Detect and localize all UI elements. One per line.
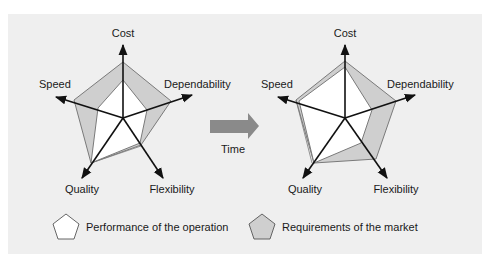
right-label-cost: Cost: [334, 27, 357, 39]
left-polar-chart: Cost Dependability Flexibility Quality S…: [39, 27, 231, 195]
gray-pentagon-icon: [249, 214, 275, 239]
right-label-dependability: Dependability: [387, 78, 454, 90]
left-label-flexibility: Flexibility: [149, 183, 195, 195]
left-label-cost: Cost: [112, 27, 135, 39]
legend-item-market: Requirements of the market: [249, 214, 418, 239]
right-label-speed: Speed: [261, 78, 293, 90]
legend-label-market: Requirements of the market: [282, 221, 418, 233]
legend: Performance of the operation Requirement…: [53, 214, 418, 239]
left-label-dependability: Dependability: [164, 78, 231, 90]
left-label-quality: Quality: [65, 183, 100, 195]
time-arrow-icon: [210, 113, 259, 139]
polar-diagrams: Cost Dependability Flexibility Quality S…: [0, 0, 499, 265]
legend-item-operation: Performance of the operation: [53, 214, 228, 239]
legend-label-operation: Performance of the operation: [86, 221, 228, 233]
time-label: Time: [221, 143, 245, 155]
right-label-flexibility: Flexibility: [373, 183, 419, 195]
right-label-quality: Quality: [288, 183, 323, 195]
left-label-speed: Speed: [39, 78, 71, 90]
right-polar-chart: Cost Dependability Flexibility Quality S…: [261, 27, 454, 195]
time-arrow: Time: [210, 113, 259, 155]
white-pentagon-icon: [53, 214, 79, 239]
